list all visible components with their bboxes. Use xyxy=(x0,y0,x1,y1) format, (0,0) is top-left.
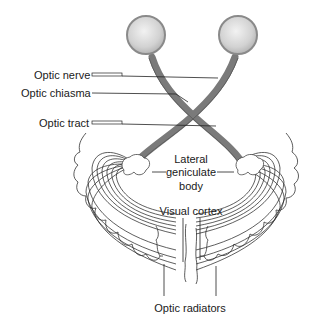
label-optic-tract: Optic tract xyxy=(39,117,89,129)
label-optic-chiasma: Optic chiasma xyxy=(21,87,92,99)
label-optic-radiators: Optic radiators xyxy=(154,302,226,314)
label-lgb-line1: Lateral xyxy=(174,153,208,165)
label-lgb-line2: geniculate xyxy=(166,166,216,178)
visual-cortex-leaders xyxy=(183,218,200,284)
label-visual-cortex: Visual cortex xyxy=(160,205,223,217)
label-lgb-line3: body xyxy=(179,180,203,192)
right-eyeball xyxy=(219,16,257,54)
left-eyeball xyxy=(127,16,165,54)
label-optic-nerve: Optic nerve xyxy=(34,69,90,81)
visual-pathway-diagram: Optic nerve Optic chiasma Optic tract La… xyxy=(0,0,324,331)
optic-pathway-fibers xyxy=(132,57,244,167)
